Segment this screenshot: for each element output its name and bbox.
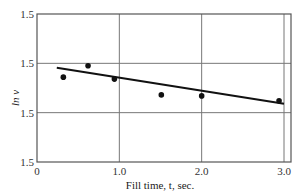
y-tick-label: 1.5: [20, 107, 34, 119]
fit-line: [57, 68, 284, 104]
data-point: [159, 92, 165, 98]
x-tick-labels: 01.02.03.0: [34, 165, 291, 177]
x-tick-label: 1.0: [112, 165, 126, 177]
data-point: [276, 98, 282, 104]
data-point: [199, 93, 205, 99]
y-tick-label: 1.5: [20, 57, 34, 69]
chart: 1.51.51.51.5 01.02.03.0 ln v Fill time, …: [0, 0, 305, 195]
y-tick-label: 1.5: [20, 8, 34, 20]
x-tick-label: 3.0: [277, 165, 291, 177]
y-tick-labels: 1.51.51.51.5: [20, 8, 34, 168]
x-tick-label: 2.0: [195, 165, 209, 177]
x-tick-label: 0: [34, 165, 40, 177]
regression-line: [57, 68, 284, 104]
y-axis-label: ln v: [9, 90, 21, 106]
data-point: [112, 76, 118, 82]
data-point: [61, 74, 67, 80]
x-axis-label: Fill time, t, sec.: [126, 179, 195, 191]
plot-frame: [37, 14, 291, 162]
y-tick-label: 1.5: [20, 156, 34, 168]
data-point: [85, 63, 91, 69]
grid-lines: [37, 14, 291, 162]
